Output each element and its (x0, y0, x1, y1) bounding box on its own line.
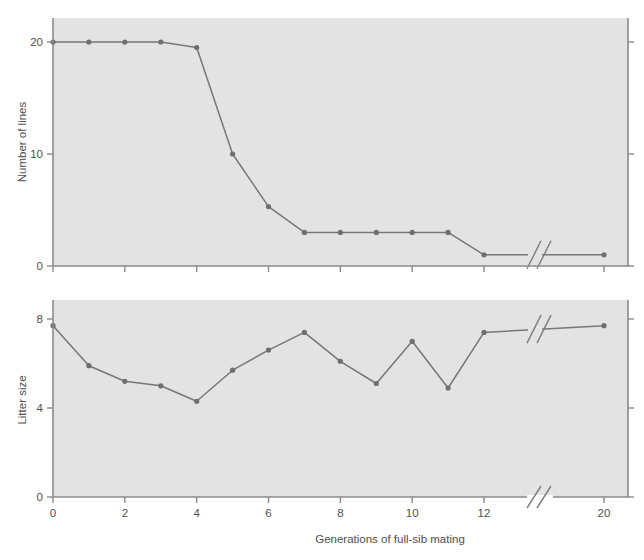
data-point-marker (302, 330, 307, 335)
data-point-marker (446, 230, 451, 235)
y-axis-title-top: Number of lines (16, 101, 28, 182)
y-tick-label: 4 (37, 402, 44, 414)
y-tick-label: 10 (30, 148, 43, 160)
break-gap-mask (528, 323, 542, 335)
x-tick-label: 0 (50, 507, 56, 519)
data-point-marker (158, 383, 163, 388)
x-tick-label: 2 (122, 507, 128, 519)
data-point-marker (266, 204, 271, 209)
data-point-marker (601, 252, 606, 257)
y-tick-label: 8 (37, 313, 43, 325)
y-tick-labels-top: 01020 (30, 36, 43, 272)
figure-container: 01020 Number of lines 048 02468101220 Li… (0, 0, 644, 560)
plot-area-background-top (53, 18, 628, 266)
x-tick-label: 4 (193, 507, 200, 519)
x-tick-label: 20 (598, 507, 611, 519)
data-point-marker (194, 45, 199, 50)
panel-litter-size: 048 02468101220 Litter size Generations … (16, 300, 634, 545)
data-point-marker (446, 385, 451, 390)
data-point-marker (122, 39, 127, 44)
data-point-marker (410, 339, 415, 344)
x-tick-labels: 02468101220 (50, 507, 611, 519)
data-point-marker (158, 39, 163, 44)
x-axis-break-gap (527, 495, 553, 500)
break-gap-mask (528, 249, 542, 261)
data-point-marker (374, 381, 379, 386)
data-point-marker (374, 230, 379, 235)
y-tick-label: 0 (37, 260, 43, 272)
data-point-marker (410, 230, 415, 235)
data-point-marker (86, 39, 91, 44)
x-tick-label: 12 (478, 507, 491, 519)
data-point-marker (230, 151, 235, 156)
chart-figure: 01020 Number of lines 048 02468101220 Li… (0, 0, 644, 560)
y-tick-label: 0 (37, 491, 43, 503)
data-point-marker (338, 359, 343, 364)
data-point-marker (601, 323, 606, 328)
data-point-marker (86, 363, 91, 368)
data-point-marker (481, 252, 486, 257)
data-point-marker (230, 368, 235, 373)
x-tick-label: 6 (265, 507, 271, 519)
y-axis-title-bottom: Litter size (16, 375, 28, 424)
panel-number-of-lines: 01020 Number of lines (16, 18, 634, 272)
data-point-marker (338, 230, 343, 235)
x-axis-title: Generations of full-sib mating (315, 533, 465, 545)
data-point-marker (266, 348, 271, 353)
x-tick-label: 10 (406, 507, 419, 519)
data-point-marker (481, 330, 486, 335)
data-point-marker (194, 399, 199, 404)
data-point-marker (122, 379, 127, 384)
y-tick-label: 20 (30, 36, 43, 48)
data-point-marker (302, 230, 307, 235)
x-tick-label: 8 (337, 507, 343, 519)
y-tick-labels-bottom: 048 (37, 313, 44, 503)
